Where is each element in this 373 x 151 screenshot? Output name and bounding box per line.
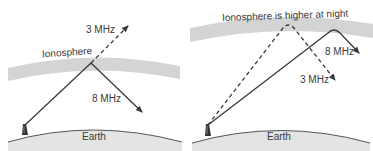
- label-3mhz: 3 MHz: [300, 74, 329, 85]
- label-8mhz: 8 MHz: [325, 46, 354, 57]
- ionosphere-diagram: 3 MHz 8 MHz Ionosphere Earth Ionosphere …: [0, 0, 373, 151]
- ionosphere-band: [8, 57, 180, 81]
- label-ionosphere: Ionosphere: [42, 45, 93, 59]
- panel-day: 3 MHz 8 MHz Ionosphere Earth: [8, 24, 182, 151]
- panel-night: Ionosphere is higher at night 8 MHz 3 MH…: [190, 8, 373, 151]
- label-3mhz: 3 MHz: [86, 24, 115, 35]
- ray-8mhz: [208, 30, 359, 125]
- antenna-icon: [22, 124, 28, 135]
- label-earth: Earth: [82, 131, 106, 142]
- antenna-icon: [205, 124, 211, 136]
- label-8mhz: 8 MHz: [92, 93, 121, 104]
- label-earth: Earth: [267, 131, 291, 142]
